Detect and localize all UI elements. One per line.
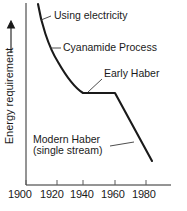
leader-line-modern-haber <box>110 142 134 146</box>
annotation-modern-haber-line2: (single stream) <box>33 145 102 156</box>
chart-plot-area <box>0 0 187 211</box>
annotation-modern-haber: Modern Haber (single stream) <box>33 134 102 156</box>
annotation-early-haber: Early Haber <box>104 68 159 79</box>
x-tick-label-1940: 1940 <box>70 188 94 200</box>
energy-requirement-chart: Energy requirement 1900 1920 1940 1960 1… <box>0 0 187 211</box>
leader-line-using-electricity <box>41 16 51 20</box>
annotation-using-electricity: Using electricity <box>54 10 128 21</box>
leader-line-early-haber <box>88 79 102 92</box>
x-axis-ticks <box>26 180 146 185</box>
y-axis-label-group: Energy requirement <box>0 20 18 180</box>
y-axis-title: Energy requirement <box>3 26 15 166</box>
x-tick-label-1980: 1980 <box>132 188 156 200</box>
annotation-cyanamide-process: Cyanamide Process <box>63 42 157 53</box>
x-tick-label-1920: 1920 <box>40 188 64 200</box>
x-tick-label-1960: 1960 <box>101 188 125 200</box>
x-tick-label-1900: 1900 <box>8 188 32 200</box>
